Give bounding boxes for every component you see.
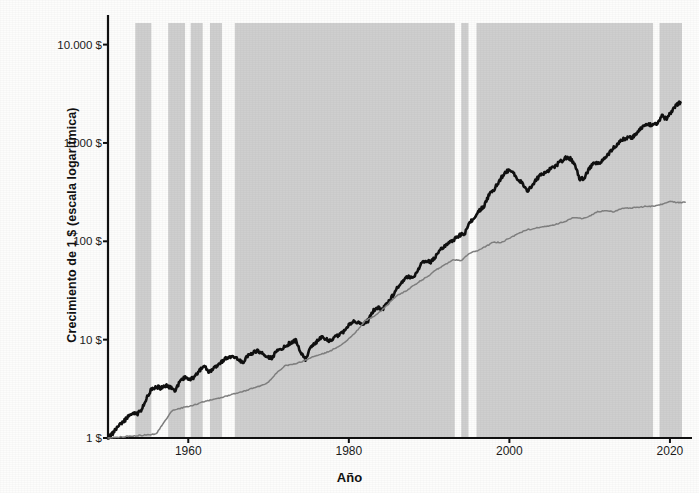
- x-tick-label: 1980: [335, 444, 362, 458]
- x-tick-label: 2000: [496, 444, 523, 458]
- recession-band: [660, 23, 682, 438]
- recession-band: [476, 23, 653, 438]
- recession-bands-group: [135, 23, 682, 438]
- recession-band: [168, 23, 185, 438]
- recession-band: [210, 23, 222, 438]
- x-tick-label: 2020: [657, 444, 684, 458]
- recession-band: [235, 23, 455, 438]
- recession-band: [135, 23, 151, 438]
- plot-area: [0, 0, 699, 493]
- x-tick-label: 1960: [175, 444, 202, 458]
- chart-figure: 10.000 $1.000 $100 $10 $1 $ Crecimiento …: [0, 0, 699, 493]
